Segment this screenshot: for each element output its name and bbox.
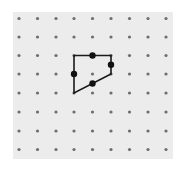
grid-dot: [146, 35, 149, 38]
grid-dot: [54, 129, 57, 132]
grid-dot: [17, 148, 20, 151]
midpoint-right-point: [108, 62, 114, 68]
grid-dot: [109, 91, 112, 94]
midpoint-bottom-point: [89, 80, 95, 86]
grid-dot: [128, 129, 131, 132]
grid-dot: [109, 129, 112, 132]
grid-dot: [164, 110, 167, 113]
grid-dot: [54, 35, 57, 38]
grid-dot: [128, 72, 131, 75]
grid-dot: [17, 110, 20, 113]
grid-dot: [54, 72, 57, 75]
grid-dot: [17, 17, 20, 20]
midpoint-left-point: [71, 71, 77, 77]
grid-dot: [164, 91, 167, 94]
grid-dot: [54, 110, 57, 113]
grid-dot: [17, 72, 20, 75]
grid-dot: [17, 35, 20, 38]
grid-dot: [128, 91, 131, 94]
grid-dot: [164, 148, 167, 151]
grid-dot: [36, 35, 39, 38]
grid-dot: [54, 148, 57, 151]
grid-dot: [91, 17, 94, 20]
grid-dot: [164, 54, 167, 57]
grid-dot: [164, 129, 167, 132]
grid-dot: [146, 91, 149, 94]
grid-dot: [72, 148, 75, 151]
grid-dot: [17, 91, 20, 94]
grid-dot: [72, 129, 75, 132]
grid-dot: [146, 110, 149, 113]
grid-dot: [146, 72, 149, 75]
grid-dot: [36, 91, 39, 94]
grid-dot: [91, 72, 94, 75]
grid-dot: [109, 110, 112, 113]
grid-dot: [128, 148, 131, 151]
grid-dot: [72, 17, 75, 20]
grid-dot: [109, 17, 112, 20]
grid-dot: [91, 110, 94, 113]
grid-dot: [109, 148, 112, 151]
grid-dot: [91, 148, 94, 151]
grid-dot: [164, 72, 167, 75]
grid-dot: [72, 35, 75, 38]
grid-dot: [54, 91, 57, 94]
grid-dot: [54, 17, 57, 20]
grid-dot: [128, 110, 131, 113]
grid-dot: [54, 54, 57, 57]
grid-dot: [91, 35, 94, 38]
grid-dot: [36, 148, 39, 151]
grid-dot: [164, 17, 167, 20]
midpoint-top-point: [89, 52, 95, 58]
grid-dot: [146, 148, 149, 151]
grid-dot: [164, 35, 167, 38]
grid-dot: [128, 54, 131, 57]
grid-dot: [36, 72, 39, 75]
grid-dot: [91, 129, 94, 132]
grid-dot: [72, 110, 75, 113]
dot-grid-diagram: [0, 0, 183, 170]
grid-dot: [128, 17, 131, 20]
grid-dot: [17, 129, 20, 132]
grid-dot: [146, 54, 149, 57]
grid-dot: [36, 54, 39, 57]
grid-dot: [109, 35, 112, 38]
grid-dot: [36, 17, 39, 20]
grid-dot: [146, 17, 149, 20]
grid-dot: [128, 35, 131, 38]
grid-dot: [36, 129, 39, 132]
grid-dot: [146, 129, 149, 132]
grid-dot: [36, 110, 39, 113]
grid-dot: [17, 54, 20, 57]
highlighted-points: [71, 52, 114, 86]
grid-dot: [91, 91, 94, 94]
